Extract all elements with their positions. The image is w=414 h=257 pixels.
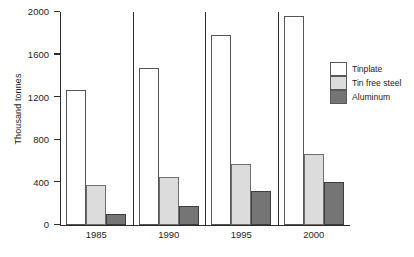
- x-axis-label: 2000: [278, 229, 351, 240]
- bar-group: [278, 12, 351, 225]
- group-separator: [205, 12, 206, 225]
- x-axis-line: [60, 225, 350, 226]
- bar-aluminum: [251, 191, 271, 225]
- y-tick-label: 2000: [28, 6, 49, 17]
- legend-swatch-aluminum: [330, 90, 347, 104]
- legend-swatch-tinplate: [330, 62, 347, 76]
- x-axis-label: 1990: [133, 229, 206, 240]
- y-tick-label: 0: [44, 219, 49, 230]
- bar-tinfree: [159, 177, 179, 225]
- bar-tinfree: [231, 164, 251, 225]
- bar-aluminum: [179, 206, 199, 225]
- group-separator: [133, 12, 134, 225]
- legend-label: Tinplate: [352, 62, 382, 76]
- legend-label: Aluminum: [352, 90, 390, 104]
- bar-tinplate: [66, 90, 86, 225]
- bar-tinplate: [284, 16, 304, 225]
- x-axis-label: 1995: [205, 229, 278, 240]
- bar-tinfree: [86, 185, 106, 225]
- plot-area: 0400800120016002000 1985199019952000: [60, 12, 350, 225]
- y-tick-label: 1200: [28, 91, 49, 102]
- legend-item: Aluminum: [330, 90, 401, 104]
- legend-item: Tinplate: [330, 62, 401, 76]
- bar-tinplate: [139, 68, 159, 225]
- bar-chart: Thousand tonnes 0400800120016002000 1985…: [0, 0, 414, 257]
- bar-tinfree: [304, 154, 324, 225]
- bar-group: [133, 12, 206, 225]
- group-separator: [60, 12, 61, 225]
- y-tick-label: 400: [33, 176, 49, 187]
- y-tick-label: 800: [33, 134, 49, 145]
- bar-group: [205, 12, 278, 225]
- bar-aluminum: [324, 182, 344, 225]
- y-axis-title: Thousand tonnes: [13, 49, 23, 169]
- bar-tinplate: [211, 35, 231, 225]
- bar-group: [60, 12, 133, 225]
- group-separator: [278, 12, 279, 225]
- legend-swatch-tinfree: [330, 76, 347, 90]
- legend-label: Tin free steel: [352, 76, 401, 90]
- y-tick-label: 1600: [28, 49, 49, 60]
- x-axis-label: 1985: [60, 229, 133, 240]
- bar-aluminum: [106, 214, 126, 225]
- chart-legend: TinplateTin free steelAluminum: [330, 62, 401, 104]
- legend-item: Tin free steel: [330, 76, 401, 90]
